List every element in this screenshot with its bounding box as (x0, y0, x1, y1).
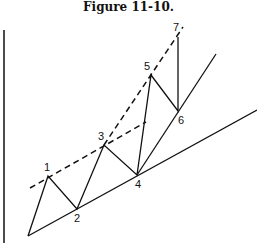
upper-trend-line (137, 54, 216, 175)
lower-trend-line (28, 110, 257, 236)
point-label-3: 3 (98, 130, 104, 142)
wave-diagram: 1 2 3 4 5 6 7 (0, 0, 257, 243)
point-label-6: 6 (178, 114, 184, 126)
dashed-line-1-3 (30, 122, 146, 188)
point-label-2: 2 (74, 212, 80, 224)
point-label-5: 5 (144, 60, 150, 72)
point-label-7: 7 (173, 21, 179, 33)
point-label-1: 1 (44, 161, 50, 173)
point-label-4: 4 (135, 178, 141, 190)
